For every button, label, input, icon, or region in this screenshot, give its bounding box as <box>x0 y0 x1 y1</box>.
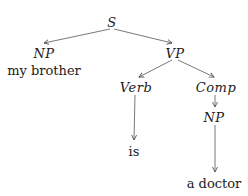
edge-s-to-np1 <box>44 29 110 43</box>
node-np-subject: NP <box>33 47 54 60</box>
node-np-complement: NP <box>203 111 224 124</box>
edge-verb-to-is <box>134 95 135 140</box>
word-is: is <box>129 145 140 158</box>
node-vp: VP <box>165 47 184 60</box>
node-verb: Verb <box>120 81 152 94</box>
edge-vp-to-verb <box>139 60 172 77</box>
node-comp: Comp <box>196 81 236 94</box>
word-a-doctor: a doctor <box>187 177 242 190</box>
edge-vp-to-comp <box>178 60 214 77</box>
word-my-brother: my brother <box>7 64 81 77</box>
syntax-tree-diagram: S NP my brother VP Verb Comp is NP a doc… <box>0 0 248 196</box>
tree-edges <box>0 0 248 196</box>
node-s: S <box>107 16 116 29</box>
edge-s-to-vp <box>114 29 172 43</box>
